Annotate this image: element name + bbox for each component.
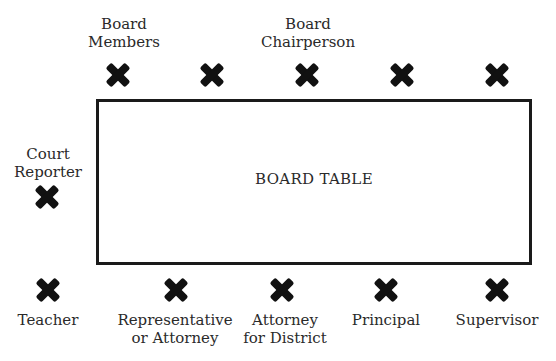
board-table: BOARD TABLE: [96, 99, 532, 265]
label-line: Attorney: [243, 311, 326, 329]
seat-principal-x-icon: [374, 278, 398, 302]
label-line: Principal: [352, 311, 420, 329]
seat-attorney-district-x-icon: [270, 278, 294, 302]
seat-supervisor-x-icon: [485, 278, 509, 302]
label-line: Chairperson: [261, 33, 355, 51]
label-line: Teacher: [18, 311, 79, 329]
seat-representative-x-icon: [164, 278, 188, 302]
label-line: Reporter: [14, 163, 82, 181]
label-line: or Attorney: [117, 329, 232, 347]
label-representative-or-attorney: Representative or Attorney: [117, 311, 232, 347]
label-line: for District: [243, 329, 326, 347]
label-court-reporter: Court Reporter: [14, 145, 82, 181]
seat-board-member-4-x-icon: [485, 63, 509, 87]
label-line: Board: [88, 15, 160, 33]
label-line: Representative: [117, 311, 232, 329]
label-line: Board: [261, 15, 355, 33]
label-line: Members: [88, 33, 160, 51]
seat-board-member-1-x-icon: [106, 63, 130, 87]
seat-board-member-2-x-icon: [200, 63, 224, 87]
label-supervisor: Supervisor: [456, 311, 539, 329]
label-teacher: Teacher: [18, 311, 79, 329]
label-board-members: Board Members: [88, 15, 160, 51]
seat-teacher-x-icon: [36, 278, 60, 302]
label-board-chairperson: Board Chairperson: [261, 15, 355, 51]
label-principal: Principal: [352, 311, 420, 329]
seat-board-chairperson-x-icon: [295, 63, 319, 87]
board-table-label: BOARD TABLE: [99, 170, 529, 188]
label-line: Court: [14, 145, 82, 163]
label-attorney-for-district: Attorney for District: [243, 311, 326, 347]
label-line: Supervisor: [456, 311, 539, 329]
seat-board-member-3-x-icon: [390, 63, 414, 87]
seat-court-reporter-x-icon: [35, 185, 59, 209]
